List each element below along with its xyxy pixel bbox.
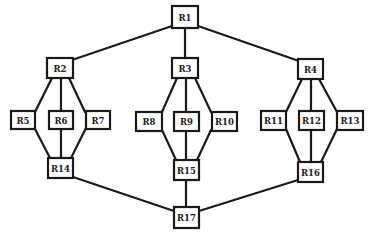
- edge-r5-r14: [35, 129, 50, 158]
- edge-r4-r11: [286, 79, 302, 112]
- edge-r11-r16: [286, 129, 300, 162]
- node-r3: R3: [172, 58, 198, 78]
- node-r9: R9: [174, 112, 199, 131]
- router-label: R8: [143, 117, 156, 127]
- router-label: R15: [177, 166, 196, 176]
- edge-r3-r10: [195, 78, 211, 112]
- router-label: R6: [55, 116, 68, 126]
- node-r12: R12: [299, 111, 324, 130]
- router-label: R9: [180, 117, 193, 127]
- router-label: R1: [179, 13, 192, 23]
- router-label: R7: [92, 116, 105, 126]
- edge-r14-r17: [73, 177, 174, 211]
- node-r10: R10: [212, 112, 237, 131]
- node-r15: R15: [174, 160, 199, 180]
- edge-r7-r14: [71, 128, 86, 158]
- router-label: R14: [51, 164, 70, 174]
- router-label: R12: [302, 116, 321, 126]
- edge-r8-r15: [162, 130, 176, 160]
- node-r2: R2: [47, 58, 73, 78]
- router-label: R13: [341, 116, 360, 126]
- router-label: R4: [304, 65, 317, 75]
- router-label: R5: [17, 116, 30, 126]
- node-r7: R7: [86, 111, 110, 129]
- edge-r13-r16: [321, 129, 337, 162]
- node-r16: R16: [298, 162, 323, 182]
- node-r11: R11: [261, 111, 286, 130]
- edge-r16-r17: [199, 180, 298, 211]
- router-label: R11: [264, 116, 283, 126]
- node-r4: R4: [298, 59, 323, 79]
- router-label: R10: [215, 117, 234, 127]
- edge-r2-r5: [35, 78, 52, 112]
- edge-r3-r8: [162, 78, 177, 112]
- node-r1: R1: [172, 6, 198, 28]
- node-r8: R8: [136, 112, 162, 131]
- router-label: R16: [301, 168, 320, 178]
- router-label: R17: [177, 213, 196, 223]
- node-r5: R5: [11, 111, 35, 129]
- edge-r1-r2: [72, 26, 172, 60]
- edge-r1-r4: [198, 26, 299, 61]
- edge-r4-r13: [319, 79, 337, 112]
- router-label: R3: [179, 64, 192, 74]
- edge-r2-r7: [69, 78, 85, 112]
- node-r6: R6: [49, 111, 73, 129]
- node-r14: R14: [48, 158, 73, 178]
- network-diagram: R1R2R3R4R5R6R7R8R9R10R11R12R13R14R15R16R…: [0, 0, 369, 239]
- router-label: R2: [54, 64, 67, 74]
- edge-r10-r15: [197, 130, 211, 160]
- node-r17: R17: [174, 207, 199, 228]
- node-r13: R13: [337, 111, 363, 130]
